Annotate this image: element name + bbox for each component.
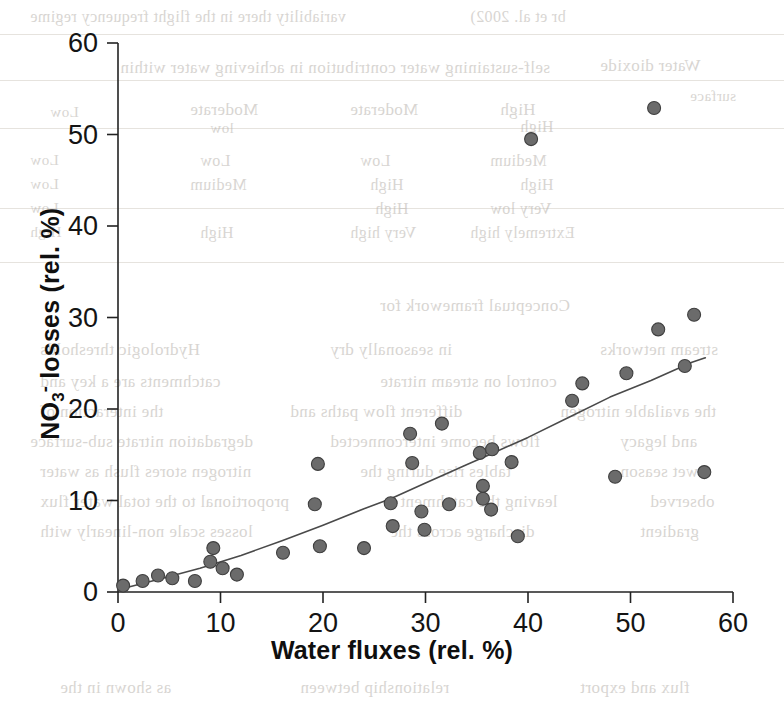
data-point xyxy=(152,569,165,582)
data-point xyxy=(216,562,229,575)
x-tick-label-60: 60 xyxy=(718,608,748,638)
data-point xyxy=(166,572,179,585)
data-point xyxy=(136,575,149,588)
x-tick-label-30: 30 xyxy=(410,608,440,638)
data-point xyxy=(435,417,448,430)
y-tick-label-50: 50 xyxy=(68,120,98,150)
data-point xyxy=(648,102,661,115)
y-axis-title-base: NO xyxy=(36,402,64,440)
data-point xyxy=(576,377,589,390)
data-point xyxy=(230,568,243,581)
data-point xyxy=(277,546,290,559)
y-tick-label-0: 0 xyxy=(83,577,98,607)
data-point xyxy=(525,133,538,146)
x-tick-label-10: 10 xyxy=(205,608,235,638)
data-point xyxy=(404,427,417,440)
data-point xyxy=(117,579,130,592)
data-point xyxy=(188,575,201,588)
x-axis-ticks xyxy=(118,592,733,603)
y-axis-ticks xyxy=(107,43,118,592)
y-tick-label-10: 10 xyxy=(68,486,98,516)
data-point xyxy=(384,497,397,510)
y-tick-label-40: 40 xyxy=(68,211,98,241)
data-point xyxy=(386,520,399,533)
data-point xyxy=(418,523,431,536)
x-axis-tick-labels: 0102030405060 xyxy=(110,608,748,638)
y-tick-label-60: 60 xyxy=(68,28,98,58)
data-point xyxy=(609,470,622,483)
data-point xyxy=(678,360,691,373)
y-axis-tick-labels: 0102030405060 xyxy=(68,28,98,607)
data-point xyxy=(652,323,665,336)
x-tick-label-0: 0 xyxy=(110,608,125,638)
y-axis-title-subscript: 3 xyxy=(49,392,68,402)
scatter-plot-figure: 0102030405060 0102030405060 Water fluxes… xyxy=(0,0,784,714)
data-point xyxy=(406,457,419,470)
data-point xyxy=(443,498,456,511)
plot-canvas: 0102030405060 0102030405060 xyxy=(0,0,784,714)
data-point xyxy=(485,503,498,516)
data-point xyxy=(698,466,711,479)
x-tick-label-50: 50 xyxy=(615,608,645,638)
y-axis-title-superscript: - xyxy=(35,386,55,392)
data-point xyxy=(313,540,326,553)
data-point xyxy=(415,505,428,518)
data-point-group xyxy=(117,102,711,593)
y-axis-title-rest: losses (rel. %) xyxy=(36,208,64,386)
data-point xyxy=(505,456,518,469)
data-point xyxy=(620,367,633,380)
data-point xyxy=(511,530,524,543)
data-point xyxy=(207,542,220,555)
data-point xyxy=(311,457,324,470)
data-point xyxy=(476,492,489,505)
x-tick-label-20: 20 xyxy=(308,608,338,638)
data-point xyxy=(473,446,486,459)
data-point xyxy=(566,394,579,407)
data-point xyxy=(476,479,489,492)
y-tick-label-30: 30 xyxy=(68,303,98,333)
data-point xyxy=(358,542,371,555)
data-point xyxy=(204,555,217,568)
y-axis-title: NO3- losses (rel. %) xyxy=(35,114,68,534)
x-tick-label-40: 40 xyxy=(513,608,543,638)
data-point xyxy=(308,498,321,511)
x-axis-title: Water fluxes (rel. %) xyxy=(0,636,784,665)
data-point xyxy=(486,443,499,456)
y-tick-label-20: 20 xyxy=(68,394,98,424)
data-point xyxy=(688,308,701,321)
